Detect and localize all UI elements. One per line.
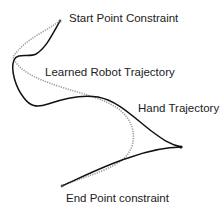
start-point-marker xyxy=(59,20,62,23)
end-point-marker xyxy=(61,185,64,188)
hand-trajectory-label: Hand Trajectory xyxy=(138,103,219,115)
hand-turning-point-marker xyxy=(179,145,182,148)
learned-robot-trajectory-label: Learned Robot Trajectory xyxy=(45,67,175,79)
end-point-label: End Point constraint xyxy=(66,193,169,205)
start-point-label: Start Point Constraint xyxy=(69,13,178,25)
